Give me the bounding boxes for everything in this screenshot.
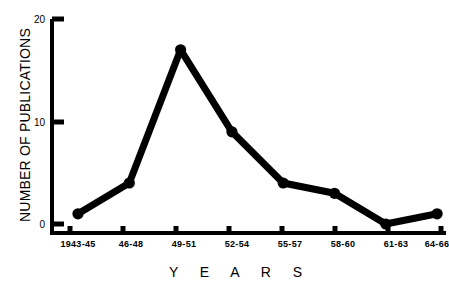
data-point-61-63: [380, 218, 391, 229]
x-tick-label-1943-45: 1943-45: [60, 239, 95, 249]
chart-figure: NUMBER OF PUBLICATIONS 20 10 0 1943-45 4…: [0, 0, 449, 289]
data-point-58-60: [329, 188, 340, 199]
y-tick-label-20: 20: [34, 14, 46, 25]
data-point-markers: [72, 44, 442, 229]
x-tick-label-55-57: 55-57: [278, 239, 303, 249]
data-point-49-51: [175, 44, 186, 55]
data-point-55-57: [278, 177, 289, 188]
x-tick-label-52-54: 52-54: [225, 239, 250, 249]
x-axis-title: Y E A R S: [169, 264, 311, 280]
data-point-1943-45: [72, 208, 83, 219]
x-tick-label-64-66: 64-66: [425, 239, 449, 249]
data-point-52-54: [226, 126, 237, 137]
y-tick-label-0: 0: [39, 219, 45, 230]
data-point-64-66: [432, 208, 443, 219]
x-tick-label-46-48: 46-48: [119, 239, 144, 249]
y-axis-title: NUMBER OF PUBLICATIONS: [17, 28, 33, 222]
x-tick-label-49-51: 49-51: [172, 239, 197, 249]
data-series-line: [78, 50, 437, 224]
y-tick-label-10: 10: [34, 117, 46, 128]
x-tick-label-58-60: 58-60: [331, 239, 356, 249]
data-point-46-48: [124, 177, 135, 188]
x-tick-label-61-63: 61-63: [384, 239, 409, 249]
line-chart: NUMBER OF PUBLICATIONS 20 10 0 1943-45 4…: [0, 0, 449, 289]
